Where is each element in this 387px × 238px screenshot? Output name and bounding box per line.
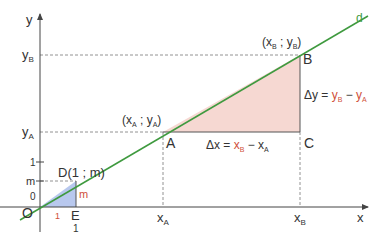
delta-y-formula: Δy = yB − yA xyxy=(304,88,367,103)
slope-diagram: y x O 0 yB yA 1 m 1 E 1 xA xB D(1 ; m) m… xyxy=(0,0,387,238)
y-axis-label: y xyxy=(26,12,33,27)
x-one-label: 1 xyxy=(55,211,60,221)
x-axis-label: x xyxy=(357,210,364,225)
point-a-label: A xyxy=(166,135,176,151)
small-m-label: m xyxy=(79,188,88,200)
point-b-label: B xyxy=(303,51,312,67)
point-e-below: 1 xyxy=(73,223,79,234)
y-a-label: yA xyxy=(22,124,35,141)
point-e-label: E xyxy=(71,208,80,223)
x-b-label: xB xyxy=(294,210,306,227)
delta-triangle-abc xyxy=(163,55,300,132)
y-b-label: yB xyxy=(22,47,34,64)
line-d-label: d xyxy=(356,11,363,25)
unit-triangle-ode xyxy=(40,181,76,207)
y-one-label: 1 xyxy=(30,157,36,168)
point-a-coords: (xA ; yA) xyxy=(122,113,161,128)
delta-x-formula: Δx = xB − xA xyxy=(206,138,269,153)
line-d xyxy=(20,16,368,220)
y-m-label: m xyxy=(26,175,35,187)
point-c-label: C xyxy=(304,135,314,151)
point-d-label: D(1 ; m) xyxy=(58,165,105,180)
origin-label: O xyxy=(22,205,33,221)
x-a-label: xA xyxy=(157,210,170,227)
zero-label: 0 xyxy=(30,191,36,202)
point-b-coords: (xB ; yB) xyxy=(262,35,301,50)
